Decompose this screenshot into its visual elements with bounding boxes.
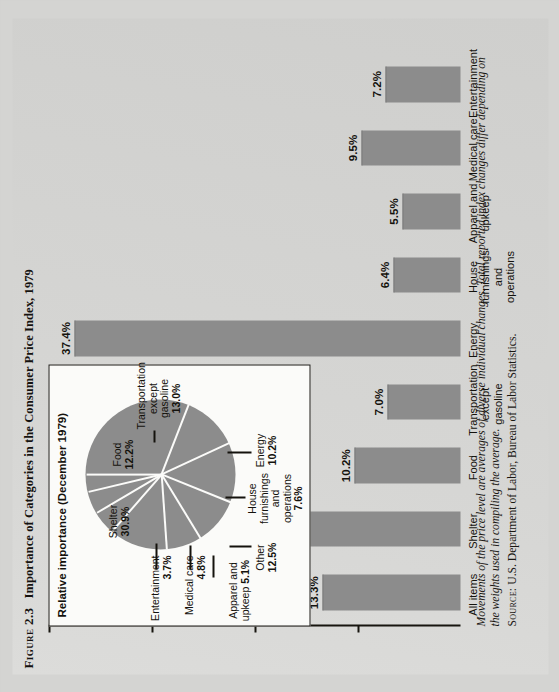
pie-label-name: Transportation except gasoline (134, 362, 169, 429)
bar-value-label: 10.2% (339, 449, 351, 482)
bar-slot: 9.5% (48, 130, 460, 166)
pie-label-value: 3.7% (160, 555, 172, 579)
source-line: Source: U.S. Department of Labor, Bureau… (505, 46, 519, 626)
bar-value-label: 7.2% (370, 70, 382, 97)
pie-label-name: Entertainment (148, 555, 160, 620)
pie-label-value: 12.2% (122, 439, 134, 469)
pie-label-name: Food (110, 442, 122, 466)
pie-label-name: Other (253, 544, 265, 570)
bar-value-label: 37.4% (59, 321, 71, 354)
pie-label-leader-line (155, 543, 157, 569)
bar[interactable] (393, 257, 460, 293)
note-body: Movements of the price level are average… (474, 46, 503, 626)
pie-label: Apparel and upkeep 5.1% (227, 559, 250, 621)
pie-label-name: House furnishings and operations (245, 473, 292, 524)
pie-label-name: Medical care (182, 555, 194, 615)
pie-label-name: Shelter (106, 504, 118, 537)
bar[interactable] (322, 574, 460, 610)
pie-label: Entertainment 3.7% (149, 555, 172, 621)
bar-value-label: 6.4% (378, 261, 390, 288)
bar-value-label: 5.5% (387, 198, 399, 225)
pie-inset-panel: Relative importance (December 1979) Shel… (48, 364, 310, 626)
bar-slot: 6.4% (48, 257, 460, 293)
figure-page: Figure 2.3Importance of Categories in th… (0, 0, 559, 692)
bar-slot: 5.5% (48, 193, 460, 229)
pie-label-value: 7.6% (291, 486, 303, 510)
pie-label: Food 12.2% (111, 431, 134, 477)
figure-note: Movements of the price level are average… (474, 46, 519, 626)
pie-label: Other 12.5% (254, 533, 277, 581)
pie-inset-title: Relative importance (December 1979) (55, 412, 67, 617)
bar-slot: 7.2% (48, 66, 460, 102)
source-label: Source: (505, 587, 518, 626)
bar-value-label: 7.0% (372, 388, 384, 415)
bar-slot: 37.4% (48, 320, 460, 356)
pie-label-leader-line (227, 451, 251, 453)
pie-label-value: 4.8% (194, 555, 206, 579)
bar[interactable] (402, 193, 460, 229)
bar[interactable] (361, 130, 460, 166)
bar[interactable] (74, 320, 460, 356)
sheet-surface: Figure 2.3Importance of Categories in th… (12, 18, 548, 674)
pie-label-value: 5.1% (238, 559, 250, 583)
pie-label-leader-line (212, 555, 214, 577)
pie-label-name: Energy (253, 433, 265, 466)
figure-number: Figure 2.3 (20, 607, 35, 668)
pie-label: Transportation except gasoline 13.0% (135, 367, 181, 429)
pie-label: Shelter 30.9% (107, 495, 130, 547)
scanned-sheet: Figure 2.3Importance of Categories in th… (0, 0, 559, 692)
figure-caption: Figure 2.3Importance of Categories in th… (20, 269, 36, 668)
pie-label: Medical care 4.8% (183, 555, 206, 621)
pie-label-value: 12.5% (265, 542, 277, 572)
pie-label-leader-line (229, 545, 251, 547)
bar[interactable] (354, 447, 460, 483)
pie-label-leader-line (189, 545, 191, 569)
pie-label: House furnishings and operations 7.6% (246, 467, 304, 529)
pie-label-value: 30.9% (118, 506, 130, 536)
pie-label-leader-line (153, 430, 155, 442)
bar[interactable] (387, 384, 460, 420)
bar[interactable] (385, 66, 460, 102)
pie-label-value: 10.2% (265, 435, 277, 465)
pie-label-value: 13.0% (169, 383, 181, 413)
pie-label-leader-line (225, 496, 245, 498)
source-text: U.S. Department of Labor, Bureau of Labo… (505, 333, 518, 584)
bar-value-label: 9.5% (346, 134, 358, 161)
figure-title: Importance of Categories in the Consumer… (21, 269, 35, 598)
y-axis-tick (357, 625, 359, 632)
